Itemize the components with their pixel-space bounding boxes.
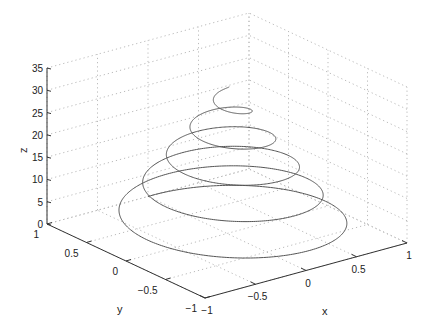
y-tick-label: −0.5 xyxy=(138,285,158,296)
grid-line xyxy=(249,147,407,221)
grid-line xyxy=(148,197,306,271)
x-tick-label: 0 xyxy=(305,278,311,289)
x-tick-label: −0.5 xyxy=(248,291,268,302)
z-tick-label: 20 xyxy=(32,130,44,141)
z-tick-mark xyxy=(47,202,51,203)
grid-line xyxy=(249,58,407,132)
x-tick-mark xyxy=(251,282,256,285)
z-axis-label: z xyxy=(17,148,29,154)
z-tick-mark xyxy=(47,68,51,69)
y-axis-label: y xyxy=(117,303,123,315)
y-tick-label: 1 xyxy=(33,229,39,240)
y-tick-label: 0.5 xyxy=(65,248,79,259)
z-tick-label: 15 xyxy=(32,152,44,163)
y-tick-label: 0 xyxy=(112,266,118,277)
x-tick-mark xyxy=(402,241,407,244)
x-tick-label: 0.5 xyxy=(352,264,366,275)
grid-line xyxy=(47,147,249,202)
tick-labels: 05101520253035−1−0.500.51−1−0.500.51 xyxy=(32,63,412,316)
z-tick-label: 25 xyxy=(32,108,44,119)
grid-line xyxy=(166,225,368,280)
z-tick-label: 35 xyxy=(32,63,44,74)
helix-3d-plot: 05101520253035−1−0.500.51−1−0.500.51 x y… xyxy=(0,0,433,333)
grid-line xyxy=(249,35,407,109)
x-axis-label: x xyxy=(322,305,328,317)
z-tick-label: 5 xyxy=(37,197,43,208)
x-tick-mark xyxy=(200,296,205,299)
y-tick-label: −1 xyxy=(186,303,198,314)
z-tick-mark xyxy=(47,113,51,114)
x-tick-label: 1 xyxy=(406,250,412,261)
z-tick-label: 30 xyxy=(32,85,44,96)
x-tick-label: −1 xyxy=(201,305,213,316)
z-tick-mark xyxy=(47,135,51,136)
z-tick-mark xyxy=(47,157,51,158)
z-tick-label: 10 xyxy=(32,174,44,185)
x-tick-mark xyxy=(352,254,357,257)
x-tick-mark xyxy=(301,268,306,271)
grid-line xyxy=(47,102,249,157)
z-tick-mark xyxy=(47,90,51,91)
grid-line xyxy=(126,206,328,261)
z-tick-mark xyxy=(47,179,51,180)
